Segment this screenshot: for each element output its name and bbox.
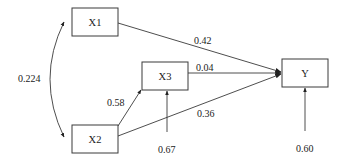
node-x3-label: X3 (159, 71, 172, 82)
residual-x3: 0.67 (158, 91, 176, 155)
node-x1: X1 (72, 8, 118, 36)
node-x3: X3 (142, 62, 188, 90)
node-x1-label: X1 (89, 17, 102, 28)
coefficient-x3-y: 0.04 (196, 62, 214, 73)
node-y: Y (282, 59, 328, 87)
node-x2-label: X2 (89, 134, 102, 145)
node-x2: X2 (72, 125, 118, 153)
coefficient-x1-y: 0.42 (194, 35, 212, 46)
coefficient-x2-x3: 0.58 (107, 97, 125, 108)
coefficient-residual-y: 0.60 (296, 143, 314, 154)
residual-y: 0.60 (296, 88, 314, 154)
correlation-x1-x2: 0.224 (18, 22, 64, 137)
coefficient-residual-x3: 0.67 (158, 144, 176, 155)
edge-x2-x3: 0.58 (107, 90, 141, 126)
coefficient-x1-x2: 0.224 (18, 73, 41, 84)
coefficient-x2-y: 0.36 (197, 108, 215, 119)
node-y-label: Y (301, 68, 309, 79)
path-diagram: 0.42 0.04 0.36 0.58 0.224 0.67 0.60 X1 X… (0, 0, 344, 168)
